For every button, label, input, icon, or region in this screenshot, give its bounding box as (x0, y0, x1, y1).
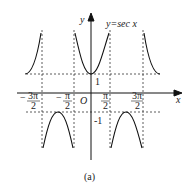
svg-text:2: 2 (103, 100, 108, 111)
y-axis-label: y (79, 14, 85, 25)
svg-text:2: 2 (65, 100, 70, 111)
sec-graph: y y=sec x x O 1 -1 − 3π 2 − π 2 π 2 3π 2… (0, 0, 191, 188)
svg-text:−: − (20, 92, 26, 103)
branch-center (75, 33, 109, 74)
svg-text:−: − (56, 92, 62, 103)
x-tick-neg-3pi-2: − 3π 2 (20, 90, 40, 111)
function-label: y=sec x (105, 18, 137, 29)
y-axis-arrow-icon (88, 13, 94, 21)
branch-lower-left (43, 112, 73, 148)
x-tick-3pi-2: 3π 2 (131, 90, 143, 111)
branch-lower-right (111, 112, 142, 148)
branch-right-upper (144, 33, 160, 74)
svg-text:2: 2 (31, 100, 36, 111)
y-tick-neg1: -1 (94, 115, 102, 126)
svg-text:2: 2 (135, 100, 140, 111)
branch-left-upper (25, 33, 41, 74)
y-tick-1: 1 (95, 76, 100, 87)
x-axis-label: x (175, 94, 181, 105)
caption: (a) (84, 171, 95, 183)
origin-label: O (80, 95, 87, 106)
